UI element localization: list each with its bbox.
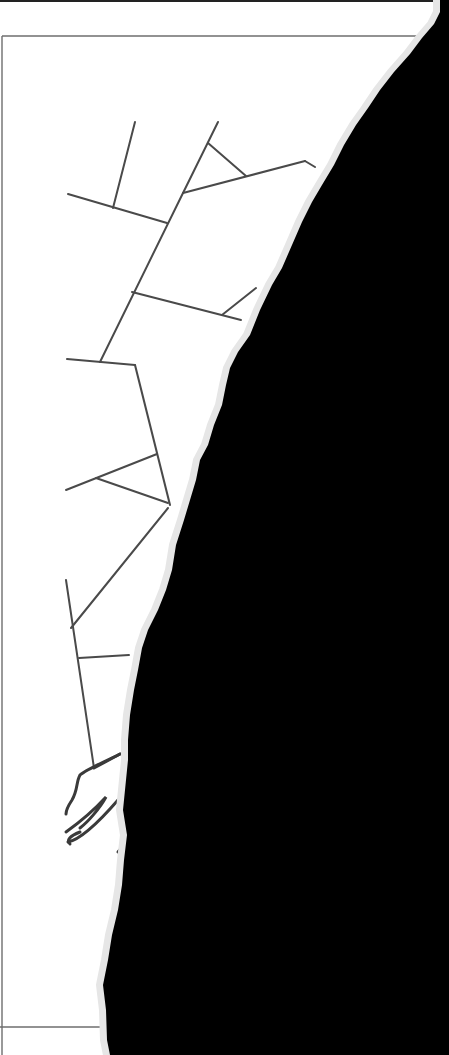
torn-drawing-scan (0, 0, 449, 1055)
drawing-canvas (0, 0, 449, 1055)
top-edge-shadow (0, 0, 449, 2)
